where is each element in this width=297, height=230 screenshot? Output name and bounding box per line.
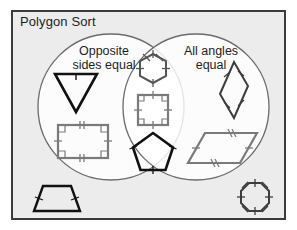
polygon-sort-diagram: Polygon Sort [0,0,297,230]
venn-label-left: Opposite sides equal [57,44,151,72]
venn-label-right: All angles equal [168,44,254,72]
venn-diagram [0,0,297,230]
shape-octagon[interactable] [237,179,273,215]
shape-trapezoid[interactable] [34,186,80,211]
